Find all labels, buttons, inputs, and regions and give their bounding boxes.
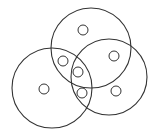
region-markers	[39, 25, 121, 98]
marker-all-three	[73, 67, 83, 77]
set-circle-top	[51, 8, 131, 88]
venn-diagram	[0, 0, 149, 135]
set-circle-right	[71, 39, 147, 115]
marker-left-right	[77, 88, 87, 98]
marker-right-only	[109, 51, 119, 61]
marker-left-only	[39, 84, 49, 94]
marker-top-only	[78, 25, 88, 35]
marker-right-bottom	[111, 86, 121, 96]
marker-top-left	[58, 56, 68, 66]
